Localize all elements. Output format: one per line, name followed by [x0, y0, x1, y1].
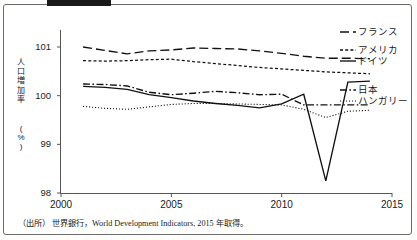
series-lines	[83, 47, 370, 181]
y-tick-label: 101	[27, 41, 51, 52]
series-line	[83, 81, 370, 181]
legend-label: 日本	[358, 85, 378, 95]
legend-label: ドイツ	[358, 56, 388, 66]
y-axis-unit-char: )	[14, 142, 28, 151]
y-axis-title-char: 率	[14, 95, 28, 104]
x-tick-label: 2000	[44, 199, 78, 210]
y-axis-title: 人口増加率	[14, 58, 28, 104]
legend-sample-lines	[340, 32, 356, 101]
y-tick-label: 98	[27, 187, 51, 198]
x-tick-label: 2005	[154, 199, 188, 210]
legend-label: フランス	[358, 27, 398, 37]
legend-label: ハンガリー	[358, 96, 408, 106]
series-line	[83, 47, 370, 59]
x-tick-label: 2015	[375, 199, 409, 210]
series-line	[83, 84, 370, 105]
axis-lines	[61, 30, 393, 194]
figure-container: 人口増加率 (%) 1011009998 2000200520102015 フラ…	[0, 0, 417, 240]
y-tick-label: 100	[27, 90, 51, 101]
legend-label: アメリカ	[358, 45, 398, 55]
y-axis-title-char: 増	[14, 76, 28, 85]
source-prefix: （出所）	[18, 219, 50, 228]
y-axis-unit-char: %	[14, 133, 28, 142]
y-axis-title-char: 人	[14, 58, 28, 67]
y-tick-label: 99	[27, 138, 51, 149]
y-axis-unit: (%)	[14, 124, 28, 151]
source-text: 世界銀行，World Development Indicators, 2015 …	[52, 219, 248, 228]
source-note: （出所） 世界銀行，World Development Indicators, …	[18, 216, 248, 228]
series-line	[83, 59, 370, 74]
y-axis-title-char: 加	[14, 86, 28, 95]
y-axis-unit-char: (	[14, 124, 28, 133]
x-tick-label: 2010	[265, 199, 299, 210]
